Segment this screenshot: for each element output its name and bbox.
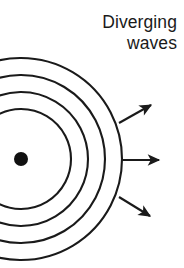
propagation-ray-group	[119, 105, 159, 216]
point-source-dot	[14, 152, 28, 166]
lower-ray-arrow	[119, 197, 150, 216]
diverging-waves-figure: Diverging waves	[0, 0, 184, 268]
caption-line-2: waves	[27, 33, 177, 54]
figure-caption: Diverging waves	[27, 12, 177, 53]
wavefront-arc-2	[0, 92, 88, 226]
caption-line-1: Diverging	[27, 12, 177, 33]
upper-ray-arrow	[119, 105, 151, 123]
wavefront-arc-1	[0, 109, 71, 209]
